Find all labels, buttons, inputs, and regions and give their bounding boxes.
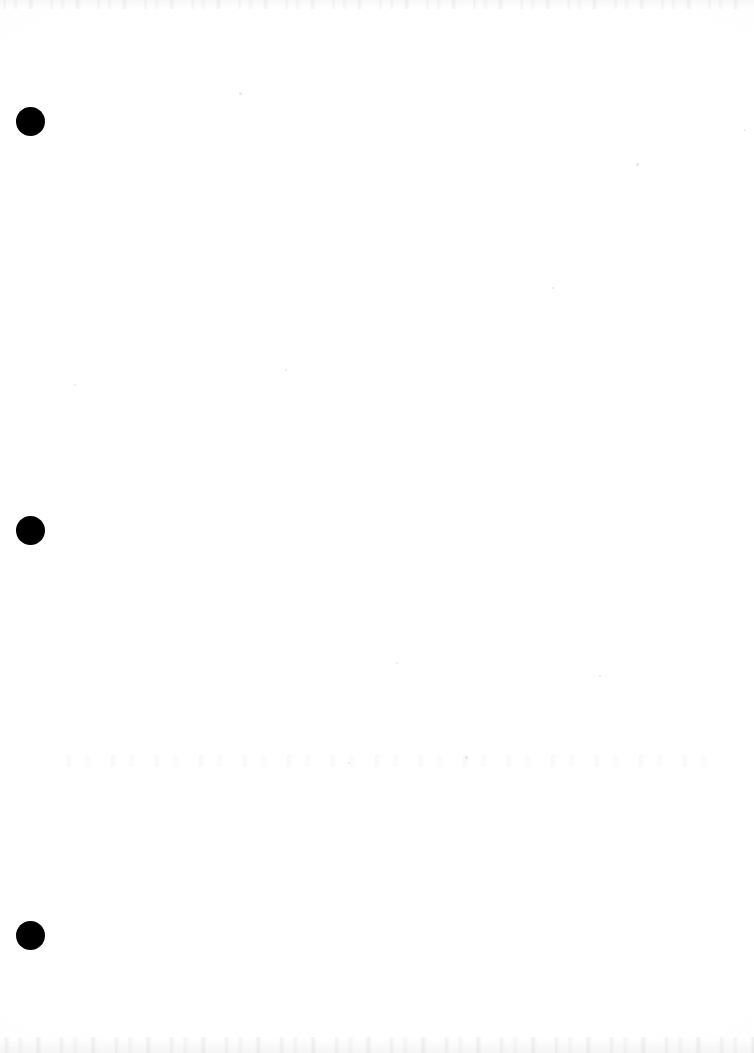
dust-speck bbox=[552, 287, 554, 289]
paper-surface bbox=[0, 0, 754, 1053]
dust-speck bbox=[396, 662, 398, 664]
scanned-page bbox=[0, 0, 754, 1053]
dust-speck bbox=[744, 129, 746, 131]
scanner-noise-bottom-band bbox=[0, 1037, 754, 1053]
punch-hole-bottom bbox=[16, 921, 45, 950]
bleed-through-text-band bbox=[60, 755, 720, 767]
dust-speck bbox=[348, 762, 350, 764]
dust-speck bbox=[74, 384, 76, 386]
punch-hole-middle bbox=[16, 516, 45, 545]
dust-speck bbox=[465, 756, 468, 759]
scanner-noise-top-band bbox=[0, 0, 754, 9]
dust-speck bbox=[239, 92, 242, 95]
punch-hole-top bbox=[16, 107, 45, 136]
dust-speck bbox=[599, 675, 601, 677]
dust-speck bbox=[285, 369, 287, 371]
dust-speck bbox=[636, 163, 639, 166]
